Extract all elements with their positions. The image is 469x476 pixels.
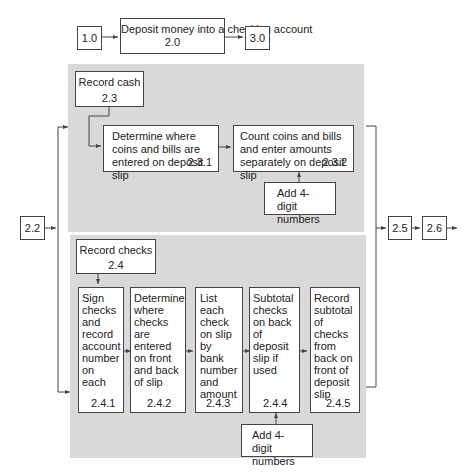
step-2-4-1-label: Sign checks and record account number on… xyxy=(82,292,120,388)
step-3-0-label: 3.0 xyxy=(250,32,265,44)
step-2-4-1-box: Sign checks and record account number on… xyxy=(78,287,124,413)
record-cash-support-box: Add 4-digit numbers xyxy=(264,182,336,215)
step-2-3-2-id: 2.3.2 xyxy=(323,156,347,169)
step-2-4-3-box: List each check on slip by bank number a… xyxy=(195,287,243,413)
record-checks-support-label: Add 4-digit numbers xyxy=(252,429,302,468)
step-2-6-box: 2.6 xyxy=(422,216,447,240)
step-2-2-box: 2.2 xyxy=(20,216,45,240)
step-1-0-label: 1.0 xyxy=(82,32,97,44)
step-2-0-box: Deposit money into a checking account 2.… xyxy=(120,18,225,54)
step-2-4-5-id: 2.4.5 xyxy=(326,397,350,409)
step-2-4-5-box: Record subtotal of checks from back on f… xyxy=(310,287,360,413)
step-1-0-box: 1.0 xyxy=(77,26,102,50)
step-2-4-4-box: Subtotal checks on back of deposit slip … xyxy=(249,287,300,413)
step-2-4-2-box: Determine where checks are entered on fr… xyxy=(130,287,186,413)
record-cash-header: Record cash 2.3 xyxy=(75,71,144,107)
step-2-4-1-id: 2.4.1 xyxy=(91,397,115,409)
step-2-4-3-id: 2.4.3 xyxy=(206,397,230,409)
step-2-4-4-id: 2.4.4 xyxy=(263,397,287,409)
step-2-4-3-label: List each check on slip by bank number a… xyxy=(200,292,238,400)
record-checks-label: Record checks xyxy=(77,244,155,257)
step-2-0-id: 2.0 xyxy=(121,36,224,49)
record-checks-id: 2.4 xyxy=(77,259,155,272)
step-3-0-box: 3.0 xyxy=(245,26,270,50)
step-2-4-5-label: Record subtotal of checks from back on f… xyxy=(314,292,356,400)
record-checks-header: Record checks 2.4 xyxy=(76,239,156,274)
step-2-3-1-id: 2.3.1 xyxy=(188,156,212,169)
step-2-6-label: 2.6 xyxy=(427,222,442,234)
step-2-4-2-id: 2.4.2 xyxy=(147,397,171,409)
step-2-4-2-label: Determine where checks are entered on fr… xyxy=(134,292,182,388)
step-2-5-box: 2.5 xyxy=(388,216,412,240)
step-2-0-label: Deposit money into a checking account xyxy=(121,23,224,36)
step-2-3-1-box: Determine where coins and bills are ente… xyxy=(103,125,219,172)
record-cash-label: Record cash xyxy=(76,76,143,89)
step-2-2-label: 2.2 xyxy=(25,222,40,234)
step-2-3-2-box: Count coins and bills and enter amounts … xyxy=(233,125,354,172)
record-cash-id: 2.3 xyxy=(76,92,143,105)
step-2-4-4-label: Subtotal checks on back of deposit slip … xyxy=(253,292,296,376)
record-checks-support-box: Add 4-digit numbers xyxy=(241,424,313,457)
step-2-5-label: 2.5 xyxy=(392,222,407,234)
record-cash-support-label: Add 4-digit numbers xyxy=(277,187,323,226)
